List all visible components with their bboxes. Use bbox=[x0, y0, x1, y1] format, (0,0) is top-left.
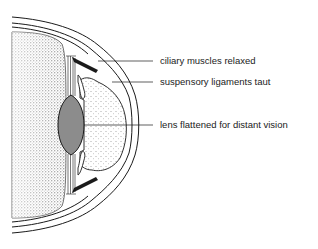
label-lens: lens flattened for distant vision bbox=[160, 120, 288, 130]
label-ciliary-muscles: ciliary muscles relaxed bbox=[160, 56, 256, 66]
anterior-chamber bbox=[80, 78, 126, 171]
label-suspensory-ligaments: suspensory ligaments taut bbox=[160, 77, 270, 87]
lens bbox=[58, 95, 84, 155]
